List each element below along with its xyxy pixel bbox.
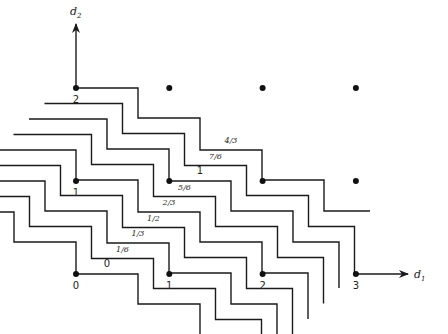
d1-axis-label: d1 xyxy=(414,268,426,283)
contour-label: 0 xyxy=(104,258,110,269)
contour-label: 4/3 xyxy=(224,136,238,145)
grid-point xyxy=(260,178,266,184)
grid-point-label: 1 xyxy=(166,280,172,291)
contour-line xyxy=(0,166,293,334)
grid-point xyxy=(73,178,79,184)
contour-label: 1/2 xyxy=(147,214,160,223)
grid-point xyxy=(260,85,266,91)
contour-label: 5/6 xyxy=(178,183,191,192)
grid-point xyxy=(353,178,359,184)
d2-axis-label: d2 xyxy=(70,5,82,20)
grid-point xyxy=(73,271,79,277)
contour-label: 2/3 xyxy=(162,198,176,207)
grid-point-label: 3 xyxy=(353,280,359,291)
grid-point-label: 2 xyxy=(259,280,265,291)
contour-label: 1/3 xyxy=(132,229,145,238)
grid-point xyxy=(73,85,79,91)
grid-point-label: 0 xyxy=(73,280,79,291)
grid-point-label: 2 xyxy=(73,94,79,105)
grid-point xyxy=(166,271,172,277)
grid-point xyxy=(260,271,266,277)
contour-lines xyxy=(0,88,408,334)
staircase-contour-diagram: 4/37/615/62/31/21/31/60012312 d2 d1 xyxy=(0,0,448,334)
grid-point xyxy=(166,178,172,184)
grid-point-label: 1 xyxy=(73,187,79,198)
contour-label: 7/6 xyxy=(209,152,222,161)
grid-point xyxy=(353,271,359,277)
grid-point xyxy=(166,85,172,91)
labels: 4/37/615/62/31/21/31/60012312 xyxy=(73,94,359,291)
contour-label: 1/6 xyxy=(116,245,129,254)
contour-line xyxy=(0,197,262,334)
grid-point xyxy=(353,85,359,91)
contour-label: 1 xyxy=(197,165,203,176)
